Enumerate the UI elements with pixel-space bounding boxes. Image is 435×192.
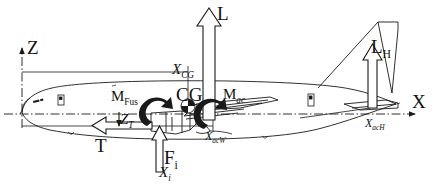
wing-ac-station-label: XacW: [205, 130, 226, 145]
wing-lift-label: L: [217, 4, 229, 23]
wing-ac-moment-label: Mac: [223, 87, 245, 105]
aircraft-diagram-svg: [0, 0, 435, 192]
tail-lift-label: LH: [371, 37, 391, 61]
cg-station-label: XCG: [172, 62, 194, 80]
engine-station-label: Xi: [159, 165, 171, 183]
cockpit-windows: [33, 98, 44, 103]
thrust-label: T: [95, 136, 107, 155]
fuselage-moment-label: MFus: [111, 89, 138, 107]
tail-ac-station-label: XacH: [365, 117, 385, 132]
thrust-offset-label: ZT: [120, 112, 134, 130]
z-axis-label: Z: [27, 38, 39, 57]
x-axis-label: X: [412, 92, 426, 111]
figure-canvas: Z X L LH T Fi MFus Mac XCG XacW XacH Xi …: [0, 0, 435, 192]
cg-marker-label: CG: [176, 85, 202, 104]
